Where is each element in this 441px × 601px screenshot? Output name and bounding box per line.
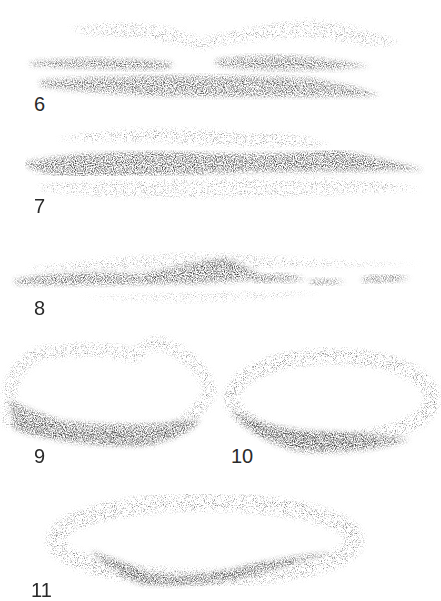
figure-label-8: 8	[34, 298, 45, 318]
figure-8-sketch	[15, 253, 420, 302]
figure-7-sketch	[25, 128, 425, 198]
figure-label-9: 9	[34, 446, 45, 466]
figure-9-sketch	[10, 344, 210, 446]
figure-label-10: 10	[231, 446, 253, 466]
figure-10-sketch	[232, 356, 432, 453]
figure-11-sketch	[55, 502, 355, 585]
figure-label-11: 11	[31, 580, 52, 600]
figure-label-6: 6	[34, 94, 45, 114]
figure-6-sketch	[30, 20, 400, 97]
figure-label-7: 7	[34, 196, 45, 216]
